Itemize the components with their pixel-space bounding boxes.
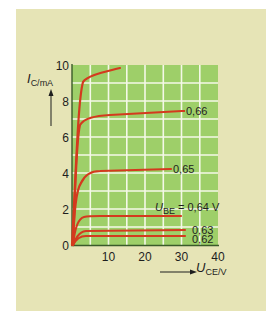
y-axis-arrowhead-icon xyxy=(49,89,54,96)
label-ube-065: 0,65 xyxy=(173,163,194,175)
y-tick-labels: 10 8 6 4 2 0 xyxy=(56,59,70,253)
y-tick-0: 0 xyxy=(62,239,69,253)
label-ube-062: 0,62 xyxy=(192,233,213,245)
x-tick-40: 40 xyxy=(211,250,225,264)
y-axis-title: IC/mA xyxy=(27,71,53,88)
label-ube-066: 0,66 xyxy=(186,105,207,117)
y-tick-6: 6 xyxy=(62,131,69,145)
x-tick-10: 10 xyxy=(102,250,116,264)
x-tick-labels: 10 20 30 40 xyxy=(102,250,225,264)
y-tick-2: 2 xyxy=(62,203,69,217)
x-tick-30: 30 xyxy=(175,250,189,264)
x-tick-20: 20 xyxy=(138,250,152,264)
y-tick-10: 10 xyxy=(56,59,70,73)
y-tick-8: 8 xyxy=(62,95,69,109)
transistor-output-characteristics-chart: 10 8 6 4 2 0 10 20 30 40 IC/mA UCE/V 0,6… xyxy=(0,0,280,326)
y-tick-4: 4 xyxy=(62,167,69,181)
